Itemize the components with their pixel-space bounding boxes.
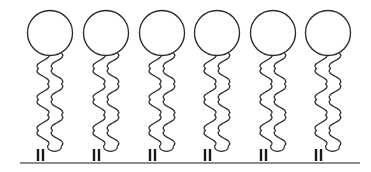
head-group-circle — [140, 11, 185, 56]
monolayer-diagram — [0, 0, 371, 172]
head-group-circle — [28, 11, 73, 56]
head-group-circle — [195, 11, 240, 56]
head-group-circle — [251, 11, 296, 56]
diagram-canvas — [0, 0, 371, 172]
head-group-circle — [306, 11, 351, 56]
head-group-circle — [84, 11, 129, 56]
